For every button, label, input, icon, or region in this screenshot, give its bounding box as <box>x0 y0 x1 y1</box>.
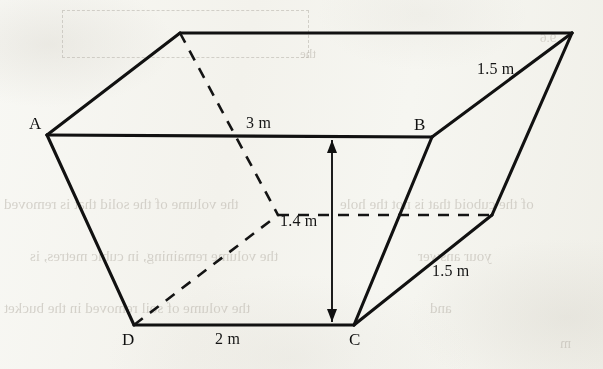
figure-container: the volume of the solid that is removedo… <box>0 0 603 369</box>
dimension-label-slant-lower-right: 1.5 m <box>432 262 469 280</box>
dimension-label-bottom-edge: 2 m <box>215 330 240 348</box>
dimension-label-slant-upper-right: 1.5 m <box>477 60 514 78</box>
dimension-label-height: 1.4 m <box>280 212 317 230</box>
vertex-label-c: C <box>349 330 360 350</box>
top-left-slant <box>47 33 180 135</box>
dimension-label-top-edge: 3 m <box>246 114 271 132</box>
right-top-slant-B <box>432 33 572 137</box>
dashed-edge-group <box>134 33 492 325</box>
height-dimension-arrow <box>327 140 337 322</box>
front-top-edge-AB <box>47 135 432 137</box>
front-left-slant-AD <box>47 135 134 325</box>
vertex-label-a: A <box>29 114 41 134</box>
front-right-slant-BC <box>354 137 432 325</box>
prism-drawing <box>0 0 603 369</box>
height-arrow-head-top <box>327 140 337 153</box>
hidden-back-left-slant <box>134 215 278 325</box>
right-bottom-slant-C <box>354 215 492 325</box>
height-arrow-head-bottom <box>327 309 337 322</box>
vertex-label-d: D <box>122 330 134 350</box>
vertex-label-b: B <box>414 115 425 135</box>
